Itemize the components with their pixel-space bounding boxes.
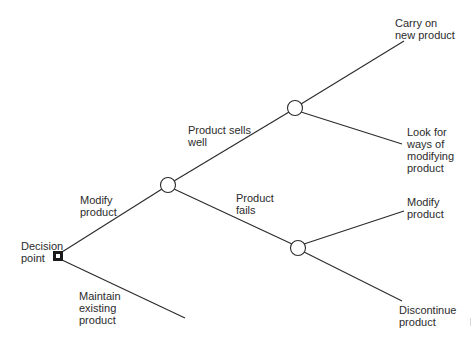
chance-node-fails [291, 241, 306, 256]
branch-line-modify-outcome [304, 211, 404, 244]
branch-line-look-for-ways [301, 112, 402, 144]
branch-line-carry-on [301, 41, 404, 104]
branch-label-modify-product: Modify product [80, 194, 117, 218]
outcome-modify-product: Modify product [407, 196, 444, 220]
scan-edge-mark [470, 318, 471, 326]
branch-line-fails [174, 189, 292, 244]
branch-line-discontinue [304, 252, 402, 301]
chance-node-sells [288, 101, 303, 116]
outcome-look-for-ways: Look for ways of modifying product [407, 126, 454, 174]
chance-node-modify [161, 178, 176, 193]
branch-label-fails: Product fails [236, 192, 274, 216]
branch-label-maintain-existing: Maintain existing product [79, 290, 121, 326]
outcome-carry-on: Carry on new product [395, 17, 455, 41]
decision-tree-lines [0, 0, 473, 344]
decision-point-label: Decision point [21, 240, 63, 264]
branch-label-sells-well: Product sells well [188, 124, 251, 148]
outcome-discontinue: Discontinue product [399, 304, 456, 328]
